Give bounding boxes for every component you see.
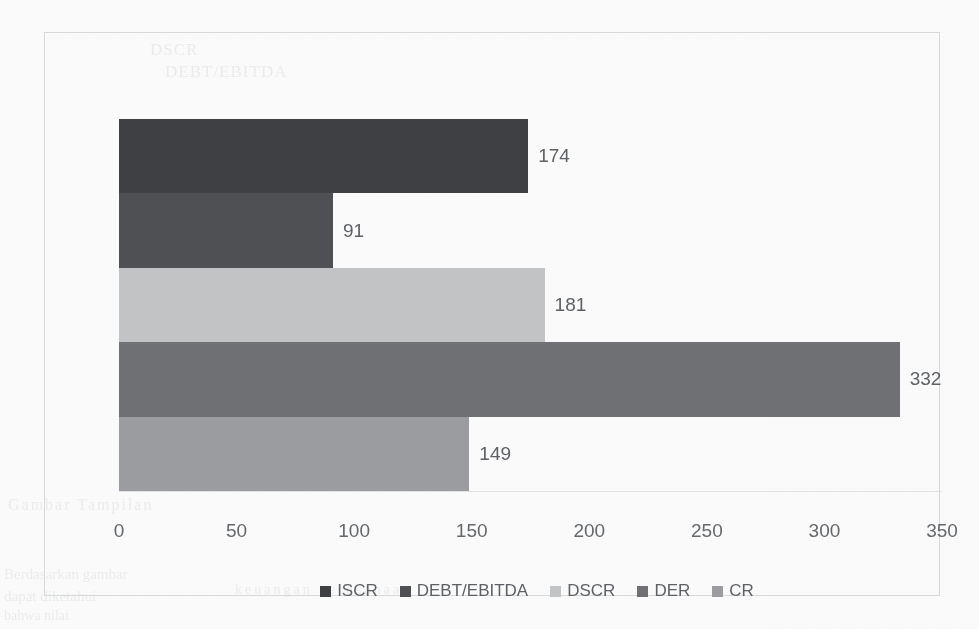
legend-item-debt-ebitda[interactable]: DEBT/EBITDA [400,581,528,601]
x-axis-line [119,491,942,492]
legend-swatch-icon [712,586,723,597]
bar-value-label: 181 [555,294,587,316]
bleed-through-text-f: bahwa nilai [4,608,69,624]
legend-item-der[interactable]: DER [637,581,690,601]
plot-area: 17491181332149 [119,119,942,491]
bar-value-label: 174 [538,145,570,167]
x-axis-tick-100: 100 [338,520,370,542]
bar-value-label: 91 [343,220,364,242]
x-axis-tick-150: 150 [456,520,488,542]
bar-value-label: 332 [910,368,942,390]
legend-swatch-icon [550,586,561,597]
bar-dscr[interactable] [119,268,545,342]
bar-der[interactable] [119,342,900,416]
bar-value-label: 149 [479,443,511,465]
bar-row: 174 [119,119,942,193]
bar-row: 332 [119,342,942,416]
bar-debt-ebitda[interactable] [119,193,333,267]
legend-label: DSCR [567,581,615,601]
x-axis-tick-labels: 050100150200250300350 [119,520,942,546]
legend-swatch-icon [637,586,648,597]
x-axis-tick-50: 50 [226,520,247,542]
x-axis-tick-350: 350 [926,520,958,542]
bar-iscr[interactable] [119,119,528,193]
legend-item-dscr[interactable]: DSCR [550,581,615,601]
chart-frame: 17491181332149 050100150200250300350 ISC… [44,32,940,596]
x-axis-tick-250: 250 [691,520,723,542]
legend-label: DEBT/EBITDA [417,581,528,601]
bar-row: 149 [119,417,942,491]
legend-swatch-icon [400,586,411,597]
bar-row: 91 [119,193,942,267]
legend-item-iscr[interactable]: ISCR [320,581,378,601]
bar-cr[interactable] [119,417,469,491]
x-axis-tick-200: 200 [573,520,605,542]
legend-label: CR [729,581,754,601]
x-axis-tick-0: 0 [114,520,125,542]
chart-legend: ISCRDEBT/EBITDADSCRDERCR [89,581,979,601]
x-axis-tick-300: 300 [809,520,841,542]
legend-swatch-icon [320,586,331,597]
bar-row: 181 [119,268,942,342]
legend-label: ISCR [337,581,378,601]
legend-item-cr[interactable]: CR [712,581,754,601]
legend-label: DER [654,581,690,601]
